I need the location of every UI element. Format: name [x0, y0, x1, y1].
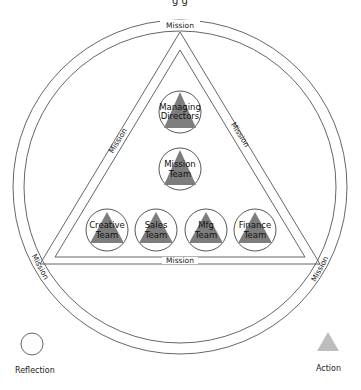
node-label-line2: Directors	[161, 111, 200, 121]
triangle-mission-bottom: Mission	[166, 256, 194, 265]
node-label-line2: Team	[95, 230, 118, 240]
node-mission-team[interactable]: Mission Team	[159, 148, 201, 190]
legend-action: Action	[316, 332, 341, 373]
node-label-line2: Team	[144, 230, 167, 240]
node-label-line2: Team	[243, 230, 266, 240]
node-creative-team[interactable]: Creative Team	[86, 209, 128, 251]
node-label-line1: Mfg	[198, 220, 214, 230]
triangle-mission-right: Mission	[229, 121, 251, 150]
node-label-line2: Team	[168, 169, 191, 179]
node-label-line1: Mission	[164, 159, 196, 169]
ring-mission-top: Mission	[166, 21, 194, 30]
legend-action-label: Action	[316, 364, 341, 373]
node-label-line1: Sales	[145, 220, 168, 230]
triangle-icon	[317, 332, 339, 351]
circle-icon	[21, 333, 43, 355]
node-label-line2: Team	[194, 230, 217, 240]
legend-reflection: Reflection	[15, 333, 55, 375]
node-managing-directors[interactable]: Managing Directors	[159, 91, 201, 133]
node-mfg-team[interactable]: Mfg Team	[185, 209, 227, 251]
title-fragment: g g	[172, 0, 188, 6]
node-sales-team[interactable]: Sales Team	[135, 209, 177, 251]
node-label-line1: Creative	[89, 220, 125, 230]
legend-reflection-label: Reflection	[15, 366, 55, 375]
node-finance-team[interactable]: Finance Team	[234, 209, 276, 251]
org-diagram: g g Mission Mission Mission Mission Miss…	[0, 0, 361, 390]
node-label-line1: Finance	[239, 220, 272, 230]
